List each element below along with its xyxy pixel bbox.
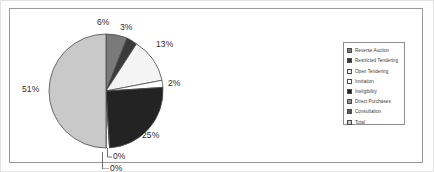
pie-slice-total[interactable] xyxy=(49,34,106,148)
legend-swatch-icon xyxy=(347,99,352,104)
leader-line-consultation xyxy=(103,152,110,169)
legend-label: Consultation xyxy=(355,109,381,114)
legend-swatch-icon xyxy=(347,79,352,84)
legend-item-invitation[interactable]: Invitation xyxy=(347,77,402,87)
legend-label: Direct Purchases xyxy=(355,99,391,104)
leader-line-direct-purchases xyxy=(108,148,113,157)
legend-label: Reverse Auction xyxy=(355,48,389,53)
chart-frame: 6% 3% 13% 2% 25% 0% 0% 51% Reverse Aucti… xyxy=(9,8,423,163)
legend-swatch-icon xyxy=(347,69,352,74)
legend-item-restricted-tendering[interactable]: Restricted Tendering xyxy=(347,56,402,66)
pie-svg xyxy=(40,19,210,169)
legend-item-direct-purchases[interactable]: Direct Purchases xyxy=(347,97,402,107)
legend-swatch-icon xyxy=(347,58,352,63)
pie-label-direct-purchases: 0% xyxy=(113,152,126,161)
pie-chart-area: 6% 3% 13% 2% 25% 0% 0% 51% xyxy=(40,19,210,169)
legend-label: Restricted Tendering xyxy=(355,58,398,63)
legend-label: Open Tendering xyxy=(355,69,388,74)
pie-label-total: 51% xyxy=(22,85,39,94)
legend-label: Invitation xyxy=(355,79,374,84)
pie-label-open-tendering: 13% xyxy=(156,40,173,49)
chart-legend: Reverse Auction Restricted Tendering Ope… xyxy=(343,42,405,125)
legend-item-open-tendering[interactable]: Open Tendering xyxy=(347,66,402,76)
pie-chart-screenshot: 6% 3% 13% 2% 25% 0% 0% 51% Reverse Aucti… xyxy=(0,0,434,172)
legend-swatch-icon xyxy=(347,48,352,53)
pie-label-invitation: 2% xyxy=(168,79,181,88)
legend-label: Ineligibility xyxy=(355,89,377,94)
legend-swatch-icon xyxy=(347,109,352,114)
pie-label-reverse-auction: 6% xyxy=(97,18,110,27)
pie-label-restricted-tendering: 3% xyxy=(120,23,133,32)
legend-item-reverse-auction[interactable]: Reverse Auction xyxy=(347,46,402,56)
legend-swatch-icon xyxy=(347,89,352,94)
legend-item-ineligibility[interactable]: Ineligibility xyxy=(347,87,402,97)
pie-label-ineligibility: 25% xyxy=(142,131,159,140)
legend-item-consultation[interactable]: Consultation xyxy=(347,107,402,117)
pie-label-consultation: 0% xyxy=(110,164,123,172)
legend-swatch-icon xyxy=(347,120,352,125)
legend-item-total[interactable]: Total xyxy=(347,117,402,127)
legend-label: Total xyxy=(355,120,365,125)
